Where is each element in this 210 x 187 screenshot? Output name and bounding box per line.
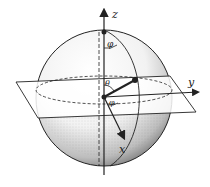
z-axis-label: z: [111, 8, 118, 21]
polar-angle-label: θ: [105, 79, 110, 88]
north-pole-point: [102, 30, 107, 35]
azimuth-angle-label: φ: [109, 98, 115, 107]
origin-point: [102, 95, 107, 100]
point-on-sphere: [132, 77, 138, 83]
y-axis-label: y: [187, 76, 195, 89]
x-axis-label: x: [119, 143, 126, 156]
top-angle-label: φ: [107, 39, 114, 49]
spherical-coordinates-diagram: z y x φ θ φ: [0, 0, 210, 187]
diagram-canvas: z y x φ θ φ: [0, 0, 210, 187]
